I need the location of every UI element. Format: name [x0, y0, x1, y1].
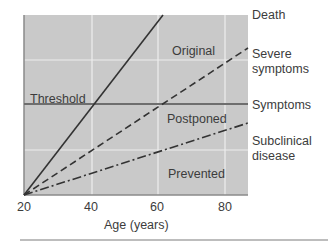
- chart-canvas: [0, 0, 331, 242]
- x-tick-60: 60: [150, 200, 164, 214]
- region-label-prevented: Prevented: [168, 167, 225, 181]
- label-subclinical-2: disease: [252, 149, 295, 163]
- region-label-original: Original: [172, 44, 215, 58]
- bottom-divider: [20, 239, 328, 241]
- region-label-postponed: Postponed: [167, 112, 227, 126]
- label-symptoms: Symptoms: [252, 98, 311, 112]
- label-death: Death: [252, 8, 285, 22]
- label-subclinical-1: Subclinical: [252, 134, 312, 148]
- threshold-label: Threshold: [30, 92, 86, 106]
- label-severe-2: symptoms: [252, 62, 309, 76]
- x-tick-20: 20: [17, 200, 31, 214]
- x-tick-80: 80: [218, 200, 232, 214]
- x-axis-label: Age (years): [104, 218, 169, 232]
- x-tick-40: 40: [84, 200, 98, 214]
- label-severe-1: Severe: [252, 47, 292, 61]
